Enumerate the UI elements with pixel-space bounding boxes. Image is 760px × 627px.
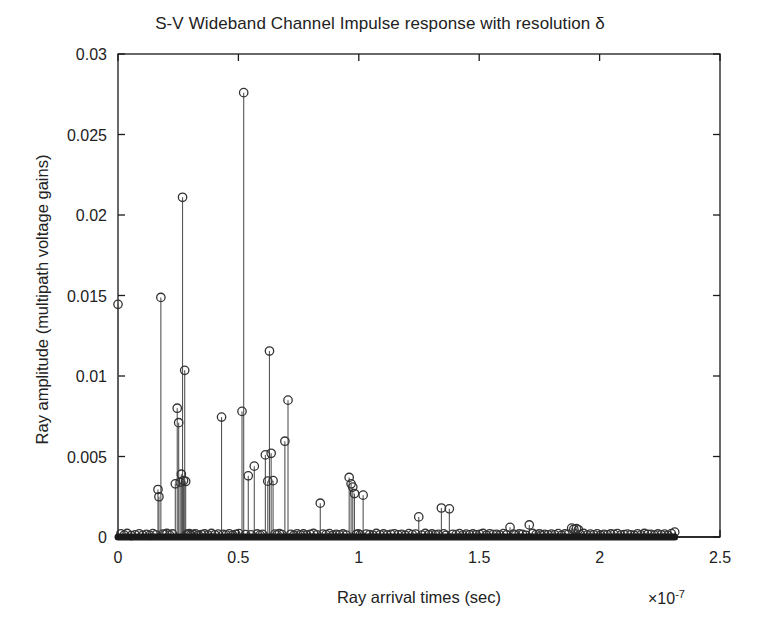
- x-axis-exponent: ×10-7: [648, 588, 685, 608]
- figure-container: S-V Wideband Channel Impulse response wi…: [0, 0, 760, 627]
- y-tick-label: 0.03: [76, 46, 107, 63]
- axes-frame: [118, 54, 720, 537]
- x-tick-label: 1: [354, 549, 363, 566]
- x-tick-label: 0.5: [227, 549, 249, 566]
- y-tick-label: 0.005: [67, 449, 107, 466]
- stem-plot-svg: 00.511.522.5 00.0050.010.0150.020.0250.0…: [0, 0, 760, 627]
- x-exponent-power: -7: [675, 588, 685, 600]
- x-axis-ticks: 00.511.522.5: [114, 54, 732, 566]
- y-tick-label: 0.02: [76, 207, 107, 224]
- x-tick-label: 2.5: [709, 549, 731, 566]
- y-tick-label: 0.01: [76, 368, 107, 385]
- x-axis-label: Ray arrival times (sec): [118, 588, 720, 607]
- x-tick-label: 2: [595, 549, 604, 566]
- x-tick-label: 1.5: [468, 549, 490, 566]
- y-tick-label: 0: [98, 529, 107, 546]
- x-tick-label: 0: [114, 549, 123, 566]
- y-axis-label: Ray amplitude (multipath voltage gains): [33, 70, 52, 530]
- stem-markers: [114, 88, 679, 539]
- x-exponent-base: ×10: [648, 590, 675, 607]
- stem-lines: [118, 93, 675, 537]
- y-tick-label: 0.015: [67, 288, 107, 305]
- y-tick-label: 0.025: [67, 127, 107, 144]
